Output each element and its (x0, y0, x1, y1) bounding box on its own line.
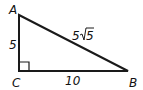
triangle-abc (19, 15, 128, 71)
side-label-ab: 5 5 (72, 28, 94, 43)
vertex-label-b: B (129, 76, 137, 90)
vertex-label-c: C (12, 76, 21, 90)
side-label-ab-radicand: 5 (86, 29, 94, 43)
side-label-ac: 5 (9, 38, 17, 52)
side-label-ab-coef: 5 (72, 29, 80, 43)
triangle-diagram: A 5 C 10 B 5 5 (0, 0, 143, 90)
vertex-label-a: A (8, 3, 17, 17)
side-label-cb: 10 (65, 74, 81, 88)
right-angle-marker (19, 62, 29, 71)
